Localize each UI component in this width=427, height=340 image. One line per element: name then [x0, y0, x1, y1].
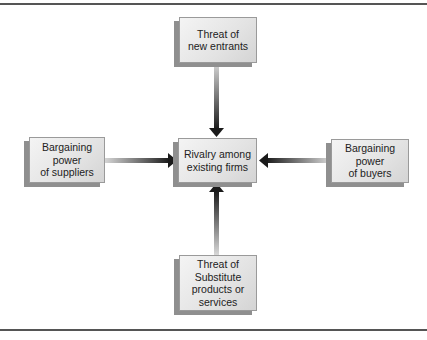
box-line: Threat of: [188, 28, 248, 41]
box-threat-of-new-entrants: Threat of new entrants: [179, 17, 257, 63]
box-line: Rivalry among: [184, 148, 251, 161]
box-line: Threat of: [192, 258, 245, 271]
box-line: power: [345, 155, 395, 168]
arrow-up-from-substitutes: [209, 183, 224, 255]
box-line: new entrants: [188, 40, 248, 53]
box-rivalry-among-existing-firms: Rivalry among existing firms: [178, 138, 257, 183]
box-line: power: [40, 154, 94, 167]
box-line: services: [192, 296, 245, 309]
box-line: Bargaining: [40, 141, 94, 154]
arrow-down-from-new-entrants: [209, 62, 224, 137]
box-bargaining-power-of-buyers: Bargaining power of buyers: [331, 139, 409, 183]
box-line: Substitute: [192, 271, 245, 284]
box-line: existing firms: [184, 161, 251, 174]
box-line: Bargaining: [345, 142, 395, 155]
arrow-right-from-suppliers: [104, 153, 177, 168]
box-line: of suppliers: [40, 166, 94, 179]
box-line: of buyers: [345, 167, 395, 180]
arrow-left-from-buyers: [259, 153, 331, 168]
box-bargaining-power-of-suppliers: Bargaining power of suppliers: [29, 137, 105, 183]
box-threat-of-substitutes: Threat of Substitute products or service…: [179, 255, 257, 311]
box-line: products or: [192, 283, 245, 296]
